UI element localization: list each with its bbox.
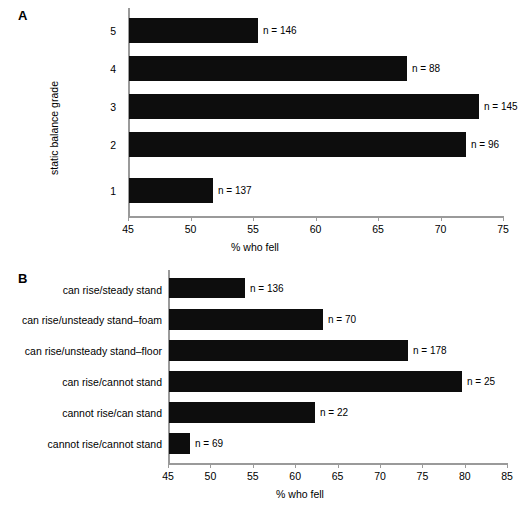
panel-a-xtick-45 (128, 216, 129, 221)
panel-a-bar-grade-2 (129, 132, 466, 157)
panel-b-bar-can-rise-unsteady-stand-floor (169, 340, 408, 361)
panel-b: B 45 50 55 60 65 70 75 80 85 % who fell … (0, 258, 526, 518)
panel-a-bar-annotation-2: n = 96 (471, 140, 499, 150)
panel-a-bar-annotation-4: n = 88 (412, 64, 440, 74)
panel-b-bar-annotation-1: n = 70 (328, 315, 356, 325)
panel-a-bar-grade-4 (129, 56, 407, 81)
panel-b-xtick-label-3: 60 (275, 470, 315, 482)
panel-a-xtick-label-4: 65 (358, 223, 398, 235)
panel-b-bar-can-rise-cannot-stand (169, 371, 462, 392)
panel-b-xtick-label-5: 70 (360, 470, 400, 482)
panel-b-category-label-4: cannot rise/can stand (18, 408, 162, 419)
panel-a-bar-grade-5 (129, 18, 258, 43)
panel-a-xtick-50 (191, 216, 192, 221)
panel-b-bar-cannot-rise-can-stand (169, 402, 315, 423)
panel-b-category-label-3: can rise/cannot stand (18, 377, 162, 388)
panel-a-bar-annotation-3: n = 145 (484, 102, 518, 112)
panel-b-xtick-80 (465, 463, 466, 468)
panel-b-xtick-85 (507, 463, 508, 468)
panel-a-xtick-label-5: 70 (421, 223, 461, 235)
panel-a-xtick-65 (378, 216, 379, 221)
panel-b-xtick-label-4: 65 (318, 470, 358, 482)
panel-a-xtick-label-0: 45 (108, 223, 148, 235)
panel-b-xtick-70 (380, 463, 381, 468)
panel-a-xtick-label-6: 75 (483, 223, 523, 235)
panel-a-category-label-5: 5 (90, 26, 116, 37)
panel-a-category-label-4: 4 (90, 64, 116, 75)
panel-b-bar-can-rise-steady-stand (169, 278, 245, 298)
panel-a-category-label-1: 1 (90, 186, 116, 197)
panel-a-x-axis-title: % who fell (195, 241, 315, 253)
panel-a-xtick-55 (253, 216, 254, 221)
panel-b-xtick-label-6: 75 (402, 470, 442, 482)
panel-a-bar-grade-1 (129, 178, 213, 203)
panel-b-bar-annotation-0: n = 136 (250, 284, 284, 294)
panel-b-xtick-75 (422, 463, 423, 468)
panel-a-bar-annotation-5: n = 146 (263, 26, 297, 36)
panel-b-category-label-5: cannot rise/cannot stand (18, 439, 162, 450)
panel-b-category-label-1: can rise/unsteady stand–foam (18, 315, 162, 326)
panel-b-bar-annotation-3: n = 25 (467, 377, 495, 387)
panel-b-x-axis-title: % who fell (240, 488, 360, 500)
panel-a-xtick-label-3: 60 (296, 223, 336, 235)
panel-b-category-label-0: can rise/steady stand (18, 285, 162, 296)
panel-b-bar-annotation-5: n = 69 (195, 439, 223, 449)
panel-a-category-label-2: 2 (90, 140, 116, 151)
panel-b-xtick-label-0: 45 (148, 470, 188, 482)
panel-b-xtick-label-8: 85 (487, 470, 526, 482)
panel-b-letter: B (18, 271, 27, 286)
panel-a-xtick-75 (503, 216, 504, 221)
panel-b-bar-cannot-rise-cannot-stand (169, 433, 190, 454)
panel-a-y-axis-title: static balance grade (48, 81, 60, 175)
panel-a-bar-annotation-1: n = 137 (218, 186, 252, 196)
panel-b-xtick-45 (168, 463, 169, 468)
panel-b-xtick-65 (338, 463, 339, 468)
panel-b-category-label-2: can rise/unsteady stand–floor (18, 346, 162, 357)
panel-a-bar-grade-3 (129, 94, 479, 119)
panel-a-xtick-70 (441, 216, 442, 221)
panel-a-letter: A (18, 8, 27, 23)
panel-a: A static balance grade 45 50 55 60 65 70… (0, 0, 526, 258)
panel-a-xtick-label-2: 55 (233, 223, 273, 235)
panel-a-xtick-60 (316, 216, 317, 221)
panel-b-bar-annotation-2: n = 178 (413, 346, 447, 356)
panel-b-xtick-label-1: 50 (190, 470, 230, 482)
panel-b-xtick-label-7: 80 (445, 470, 485, 482)
panel-a-xtick-label-1: 50 (171, 223, 211, 235)
panel-b-xtick-60 (295, 463, 296, 468)
panel-a-category-label-3: 3 (90, 102, 116, 113)
panel-b-xtick-50 (210, 463, 211, 468)
panel-b-bar-annotation-4: n = 22 (320, 408, 348, 418)
panel-b-xtick-55 (253, 463, 254, 468)
panel-b-bar-can-rise-unsteady-stand-foam (169, 309, 323, 330)
panel-b-xtick-label-2: 55 (233, 470, 273, 482)
